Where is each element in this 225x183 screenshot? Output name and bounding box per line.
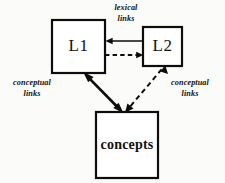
node-concepts[interactable]: concepts xyxy=(96,112,158,178)
edge-l1-to-l2-lexical xyxy=(105,52,143,58)
label-lexical-links: lexical links xyxy=(115,3,139,23)
label-lexical-links-line2: links xyxy=(118,14,135,23)
node-l1[interactable]: L1 xyxy=(52,20,105,73)
label-conceptual-links-right: conceptual links xyxy=(171,78,209,98)
label-conceptual-links-right-line2: links xyxy=(182,89,199,98)
node-concepts-label: concepts xyxy=(101,137,154,152)
edge-l1-concepts-conceptual xyxy=(83,72,123,113)
diagram-canvas: L1 L2 concepts lexical links conceptual … xyxy=(0,0,225,183)
label-conceptual-links-left: conceptual links xyxy=(13,78,51,98)
edge-line xyxy=(88,77,120,109)
node-l1-label: L1 xyxy=(69,36,89,55)
bilingual-memory-model-diagram: L1 L2 concepts lexical links conceptual … xyxy=(0,0,225,183)
label-conceptual-links-left-line1: conceptual xyxy=(13,78,51,87)
node-l2[interactable]: L2 xyxy=(143,27,182,66)
node-l2-label: L2 xyxy=(153,36,173,55)
edge-l2-to-l1-lexical xyxy=(105,38,143,44)
label-conceptual-links-right-line1: conceptual xyxy=(171,78,209,87)
arrowhead-left xyxy=(105,38,112,44)
label-lexical-links-line1: lexical xyxy=(115,3,139,12)
label-conceptual-links-left-line2: links xyxy=(24,89,41,98)
edge-line xyxy=(129,69,162,108)
edge-l2-concepts-conceptual xyxy=(125,65,168,113)
